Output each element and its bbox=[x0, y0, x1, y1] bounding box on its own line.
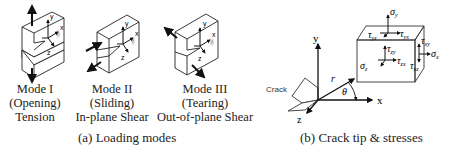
panel-a-caption: (a) Loading modes bbox=[78, 130, 176, 146]
crack-y-label: y bbox=[313, 32, 319, 44]
mode-3-specimen bbox=[175, 14, 218, 75]
mode-2-description: In-plane Shear bbox=[72, 110, 152, 124]
tau-zy-label: τzy bbox=[387, 43, 396, 55]
theta-arc bbox=[348, 82, 356, 100]
mode-1-name: Mode I bbox=[4, 82, 66, 96]
mode-2-label: Mode II (Sliding) In-plane Shear bbox=[72, 82, 152, 124]
tau-yx-label: τyx bbox=[400, 28, 409, 40]
mode-3-label: Mode III (Tearing) Out-of-plane Shear bbox=[150, 82, 260, 124]
mode-2-subtitle: (Sliding) bbox=[72, 96, 152, 110]
mode-1-z-label: z bbox=[47, 49, 51, 56]
theta-label: θ bbox=[342, 86, 347, 97]
mode-2-y-label: y bbox=[125, 20, 129, 28]
tau-xy-label: τxy bbox=[421, 35, 430, 47]
r-label: r bbox=[331, 73, 335, 84]
mode-1-x-label: x bbox=[60, 24, 64, 31]
crack-label: Crack bbox=[266, 85, 288, 94]
tau-yz-label: τyz bbox=[368, 29, 377, 41]
crack-z-label: z bbox=[297, 114, 302, 125]
mode-3-y-label: y bbox=[203, 20, 207, 28]
mode-2-z-label: z bbox=[121, 54, 125, 61]
mode-1-description: Tension bbox=[4, 110, 66, 124]
crack-x-label: x bbox=[377, 94, 383, 106]
mode-2-name: Mode II bbox=[72, 82, 152, 96]
crack-tip-axes bbox=[307, 44, 372, 113]
mode-3-z-label: z bbox=[198, 55, 202, 62]
mode-1-label: Mode I (Opening) Tension bbox=[4, 82, 66, 124]
mode-1-specimen bbox=[22, 12, 64, 78]
sigma-z-label: σz bbox=[360, 60, 368, 72]
tau-zx-label: τzx bbox=[397, 55, 406, 67]
mode-3-description: Out-of-plane Shear bbox=[150, 110, 260, 124]
sigma-x-label: σx bbox=[431, 48, 439, 60]
sigma-y-label: σy bbox=[390, 6, 398, 18]
mode-2-x-label: x bbox=[135, 30, 139, 37]
mode-3-subtitle: (Tearing) bbox=[150, 96, 260, 110]
panel-b-caption: (b) Crack tip & stresses bbox=[300, 130, 423, 146]
mode-3-name: Mode III bbox=[150, 82, 260, 96]
mode-1-subtitle: (Opening) bbox=[4, 96, 66, 110]
mode-1-y-label: y bbox=[50, 13, 54, 21]
mode-3-x-label: x bbox=[212, 31, 216, 38]
